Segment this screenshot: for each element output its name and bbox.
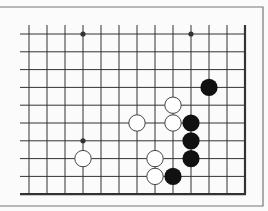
black-stone <box>200 79 217 96</box>
hoshi-point <box>188 31 193 36</box>
stones <box>75 79 218 185</box>
black-stone <box>164 168 181 185</box>
hoshi-point <box>80 31 85 36</box>
black-stone <box>182 150 199 167</box>
go-diagram <box>0 0 268 211</box>
black-stone <box>182 114 199 131</box>
black-stone <box>182 132 199 149</box>
white-stone <box>165 97 181 113</box>
hoshi-point <box>80 138 85 143</box>
white-stone <box>147 168 163 184</box>
white-stone <box>147 150 163 166</box>
white-stone <box>129 115 145 131</box>
white-stone <box>75 150 91 166</box>
board-grid <box>20 25 246 194</box>
white-stone <box>165 115 181 131</box>
